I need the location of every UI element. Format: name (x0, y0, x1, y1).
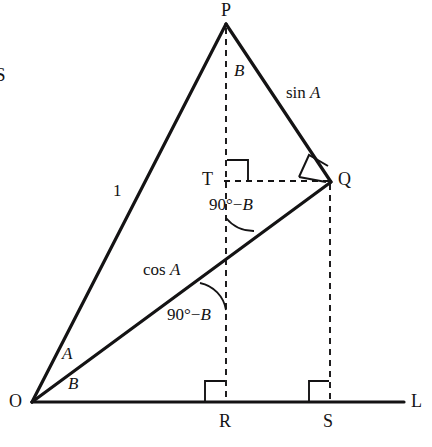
point-label-L: L (411, 392, 422, 410)
point-label-T: T (202, 170, 213, 188)
page-edge-letter: S (0, 64, 6, 86)
right-angle-at-t-icon (227, 160, 248, 180)
angle-label-p: B (234, 62, 244, 79)
segment-OQ (32, 182, 331, 402)
point-label-R: R (219, 412, 231, 430)
right-angle-at-s-icon (309, 381, 329, 402)
angle-arc-at-t (226, 218, 254, 231)
geometry-figure (0, 0, 432, 447)
right-angle-at-r-icon (205, 381, 225, 402)
angle-label-t: 90°−B (209, 196, 253, 213)
point-label-S: S (323, 412, 333, 430)
point-label-Q: Q (338, 170, 351, 188)
point-label-P: P (221, 1, 231, 19)
side-label-oq: cos A (143, 261, 180, 278)
angle-label-q-lower: 90°−B (167, 306, 211, 323)
point-label-O: O (9, 392, 22, 410)
angle-label-o-lower: B (68, 375, 78, 392)
angle-label-o-upper: A (62, 345, 72, 362)
side-label-op: 1 (113, 182, 122, 199)
side-label-pq: sin A (286, 84, 320, 101)
